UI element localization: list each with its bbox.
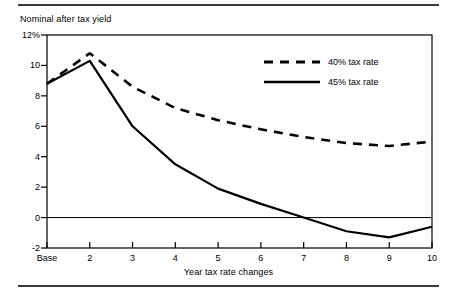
x-axis-ticks	[47, 242, 432, 248]
y-axis-tick-label: 12%	[8, 30, 40, 40]
y-axis-tick-label: 8	[8, 91, 40, 101]
y-axis-tick-label: 6	[8, 121, 40, 131]
x-axis-tick-label: 8	[344, 253, 349, 263]
x-axis-tick-label: 10	[427, 253, 437, 263]
y-axis-tick-label: 2	[8, 182, 40, 192]
x-axis-tick-label: 5	[216, 253, 221, 263]
plot-area	[0, 0, 457, 295]
figure: Nominal after tax yield Year tax rate ch…	[0, 0, 457, 295]
x-axis-tick-label: 4	[173, 253, 178, 263]
series-line-45-percent	[47, 61, 432, 237]
y-axis-ticks	[41, 35, 47, 248]
legend-label-40-percent: 40% tax rate	[328, 57, 379, 67]
x-axis-tick-label: 6	[258, 253, 263, 263]
y-axis-tick-label: 4	[8, 152, 40, 162]
y-axis-tick-label: -2	[8, 243, 40, 253]
x-axis-tick-label: 9	[387, 253, 392, 263]
series-line-40-percent	[47, 53, 432, 146]
y-axis-tick-label: 0	[8, 213, 40, 223]
legend-marks	[264, 62, 320, 82]
x-axis-tick-label: 2	[87, 253, 92, 263]
legend-label-45-percent: 45% tax rate	[328, 77, 379, 87]
x-axis-tick-label: 7	[301, 253, 306, 263]
y-axis-tick-label: 10	[8, 60, 40, 70]
x-axis-tick-label: Base	[37, 253, 58, 263]
x-axis-tick-label: 3	[130, 253, 135, 263]
